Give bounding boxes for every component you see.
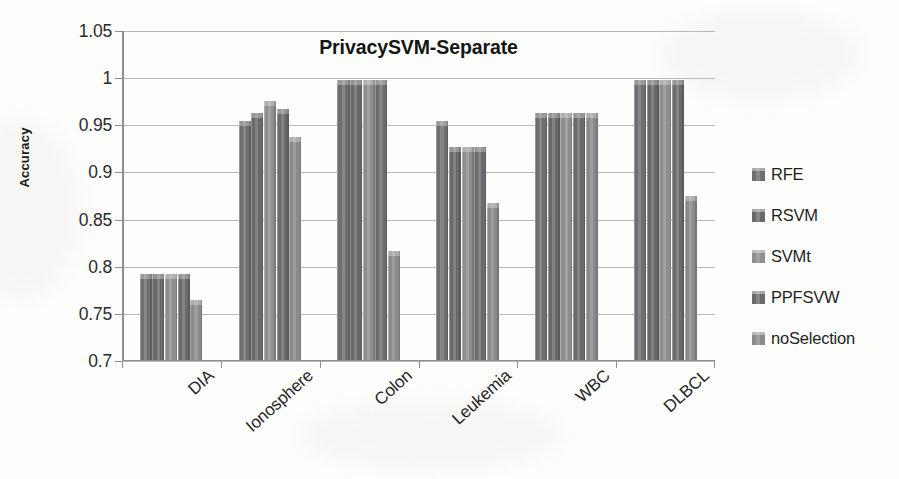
legend-item[interactable]: noSelection xyxy=(752,318,897,359)
legend-swatch-gloss xyxy=(756,291,760,304)
bar-left-edge xyxy=(586,113,587,361)
x-tick-label: Ionosphere xyxy=(243,366,318,436)
bar-left-edge xyxy=(152,274,153,361)
x-tick-label: Leukemia xyxy=(448,366,515,429)
bar-gloss xyxy=(354,80,357,361)
bar xyxy=(672,80,684,361)
bar-gloss xyxy=(169,274,172,361)
bar xyxy=(634,80,646,361)
bar-gloss xyxy=(663,80,666,361)
bar xyxy=(239,121,251,361)
bar-gloss xyxy=(157,274,160,361)
bar-gloss xyxy=(478,147,481,361)
bar-left-edge xyxy=(560,113,561,361)
bar xyxy=(264,101,276,361)
bar-gloss xyxy=(590,113,593,361)
bar-left-edge xyxy=(685,196,686,361)
bar-gloss xyxy=(638,80,641,361)
bar-gloss xyxy=(268,101,271,361)
bar xyxy=(363,80,375,361)
bar xyxy=(251,113,263,361)
bar-group xyxy=(239,31,302,361)
legend-swatch-gloss xyxy=(756,209,760,222)
bar-group xyxy=(337,31,400,361)
legend-color-swatch xyxy=(752,209,765,222)
bar-gloss xyxy=(255,113,258,361)
bar-gloss xyxy=(539,113,542,361)
legend-color-swatch xyxy=(752,291,765,304)
bar-left-edge xyxy=(165,274,166,361)
bar-gloss xyxy=(577,113,580,361)
bar-right-shadow xyxy=(300,137,302,361)
y-tick-mark xyxy=(115,31,122,32)
bars-layer xyxy=(122,31,715,361)
y-axis-title: Accuracy xyxy=(17,98,32,218)
legend-swatch-gloss xyxy=(756,250,760,263)
y-tick-mark xyxy=(115,172,122,173)
bar xyxy=(190,300,202,361)
bar-group xyxy=(535,31,598,361)
bar xyxy=(462,147,474,362)
bar xyxy=(586,113,598,361)
bar-left-edge xyxy=(190,300,191,361)
bar-left-edge xyxy=(178,274,179,361)
bar-left-edge xyxy=(251,113,252,361)
legend-item[interactable]: RSVM xyxy=(752,195,897,236)
bar-left-edge xyxy=(375,80,376,361)
bar-left-edge xyxy=(337,80,338,361)
bar-left-edge xyxy=(388,251,389,361)
bar-group xyxy=(140,31,203,361)
y-tick-mark xyxy=(115,125,122,126)
bar xyxy=(474,147,486,361)
legend-label: SVMt xyxy=(771,247,811,266)
bar xyxy=(647,80,659,361)
bar-left-edge xyxy=(672,80,673,361)
bar-left-edge xyxy=(350,80,351,361)
x-axis-tick-labels: DIAIonosphereColonLeukemiaWBCDLBCL xyxy=(122,366,715,456)
bar xyxy=(685,196,697,361)
bar xyxy=(449,147,461,361)
bar-left-edge xyxy=(239,121,240,361)
chart-figure: Accuracy 0.70.750.80.850.90.9511.05 Priv… xyxy=(0,0,899,479)
bar xyxy=(487,203,499,361)
legend-item[interactable]: SVMt xyxy=(752,236,897,277)
bar xyxy=(277,109,289,361)
bar-right-shadow xyxy=(497,203,499,361)
bar-gloss xyxy=(367,80,370,361)
bar-left-edge xyxy=(462,147,463,362)
chart-legend: RFERSVMSVMtPPFSVWnoSelection xyxy=(752,154,897,359)
bar-left-edge xyxy=(487,203,488,361)
y-tick-label: 0.75 xyxy=(60,303,112,324)
bar-gloss xyxy=(342,80,345,361)
legend-label: RSVM xyxy=(771,206,818,225)
bar xyxy=(140,274,152,361)
y-tick-label: 0.8 xyxy=(60,256,112,277)
legend-label: PPFSVW xyxy=(771,288,839,307)
bar xyxy=(289,137,301,361)
bar-gloss xyxy=(651,80,654,361)
bar xyxy=(573,113,585,361)
bar-gloss xyxy=(392,251,395,361)
x-tick-label: DLBCL xyxy=(660,366,713,417)
bar-gloss xyxy=(491,203,494,361)
bar-right-shadow xyxy=(596,113,598,361)
bar-gloss xyxy=(440,121,443,361)
bar-left-edge xyxy=(363,80,364,361)
legend-item[interactable]: PPFSVW xyxy=(752,277,897,318)
bar-left-edge xyxy=(573,113,574,361)
bar-gloss xyxy=(466,147,469,362)
bar xyxy=(350,80,362,361)
bar-left-edge xyxy=(140,274,141,361)
bar-left-edge xyxy=(436,121,437,361)
bar-right-shadow xyxy=(201,300,203,361)
bar xyxy=(375,80,387,361)
legend-swatch-gloss xyxy=(756,168,760,181)
bar xyxy=(388,251,400,361)
legend-item[interactable]: RFE xyxy=(752,154,897,195)
bar-gloss xyxy=(293,137,296,361)
bar-gloss xyxy=(565,113,568,361)
y-tick-mark xyxy=(115,314,122,315)
bar xyxy=(337,80,349,361)
legend-color-swatch xyxy=(752,332,765,345)
y-tick-mark xyxy=(115,267,122,268)
